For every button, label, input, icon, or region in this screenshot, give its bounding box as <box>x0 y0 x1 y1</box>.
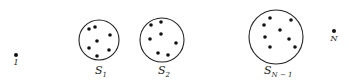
element-dot <box>268 16 272 20</box>
element-dot <box>95 39 99 43</box>
element-dot <box>87 27 91 31</box>
element-dot <box>149 23 153 27</box>
element-dot <box>289 18 293 22</box>
element-dot <box>159 32 163 36</box>
element-dot <box>166 53 170 57</box>
set-SN-1: SN − 1 <box>249 10 303 79</box>
set-S2: S2 <box>140 18 184 79</box>
element-dot <box>263 35 267 39</box>
element-dot <box>293 45 297 49</box>
element-dot <box>262 23 266 27</box>
point-dot <box>332 29 336 33</box>
element-dot <box>107 48 111 52</box>
set-partition-diagram: 1N S1S2SN − 1 <box>0 0 349 82</box>
element-dot <box>174 41 178 45</box>
element-dot <box>87 46 91 50</box>
set-label: SN − 1 <box>264 64 292 79</box>
singleton-label: 1 <box>13 58 18 67</box>
element-dot <box>93 25 97 29</box>
singleton-label: N <box>330 34 339 43</box>
element-dot <box>95 54 99 58</box>
element-dot <box>268 45 272 49</box>
point-dot <box>14 53 18 57</box>
set-label: S1 <box>95 64 107 79</box>
element-dot <box>278 28 282 32</box>
element-dot <box>148 37 152 41</box>
singleton-N: N <box>330 29 339 43</box>
element-dot <box>156 51 160 55</box>
singleton-1: 1 <box>13 53 18 67</box>
set-label: S2 <box>158 64 171 79</box>
set-boundary-circle <box>79 20 119 60</box>
element-dot <box>108 33 112 37</box>
singleton-points: 1N <box>13 29 338 67</box>
set-S1: S1 <box>79 20 119 79</box>
element-dot <box>287 37 291 41</box>
set-boundary-circle <box>140 18 184 62</box>
set-boundary-circle <box>249 10 303 64</box>
element-dot <box>159 20 163 24</box>
set-circles: S1S2SN − 1 <box>79 10 303 79</box>
